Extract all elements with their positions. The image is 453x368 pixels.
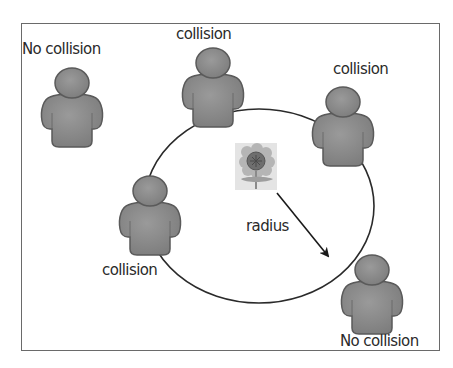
label-no-collision-bottom-right: No collision [340, 334, 419, 349]
label-radius: radius [246, 219, 289, 234]
person-icon-collision-top [182, 48, 243, 127]
flower-icon [235, 143, 277, 190]
person-icon-collision-left [119, 176, 180, 255]
label-collision-left: collision [102, 263, 157, 278]
person-icon-no-collision-top-left [41, 68, 102, 147]
person-icon-collision-right [312, 87, 373, 166]
label-no-collision-top-left: No collision [22, 42, 101, 57]
person-icon-no-collision-bottom-right [341, 255, 402, 334]
label-collision-right: collision [333, 62, 388, 77]
label-collision-top: collision [176, 27, 231, 42]
